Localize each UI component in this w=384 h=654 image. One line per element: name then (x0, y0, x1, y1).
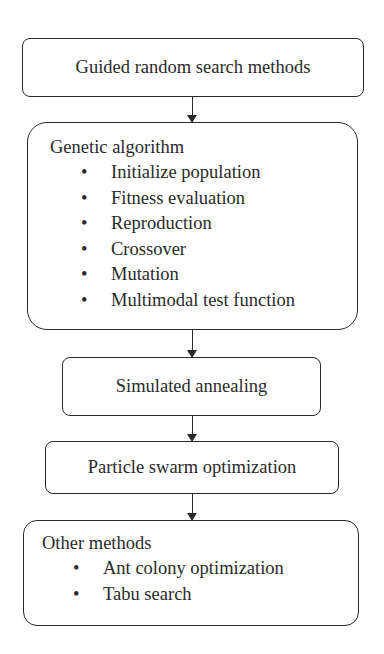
bullet-icon: • (81, 186, 87, 212)
node-label: Guided random search methods (76, 57, 311, 78)
bullet-icon: • (73, 556, 79, 582)
node-simulated-annealing: Simulated annealing (62, 357, 321, 416)
node-title: Other methods (42, 531, 358, 556)
arrow-pso-to-other (192, 494, 193, 520)
list-item: •Multimodal test function (111, 288, 357, 314)
list-item: •Fitness evaluation (111, 186, 357, 212)
list-item: •Reproduction (111, 211, 357, 237)
other-methods-list: •Ant colony optimization •Tabu search (42, 556, 358, 607)
bullet-icon: • (73, 582, 79, 608)
node-label: Simulated annealing (116, 376, 268, 397)
bullet-icon: • (81, 237, 87, 263)
node-genetic-algorithm: Genetic algorithm •Initialize population… (27, 122, 358, 330)
list-item: •Crossover (111, 237, 357, 263)
bullet-icon: • (81, 262, 87, 288)
arrow-ga-to-sa (192, 330, 193, 357)
list-item: •Initialize population (111, 160, 357, 186)
node-label: Particle swarm optimization (88, 457, 297, 478)
arrow-sa-to-pso (192, 416, 193, 441)
node-particle-swarm: Particle swarm optimization (45, 441, 339, 494)
list-item: •Tabu search (103, 582, 358, 608)
node-other-methods: Other methods •Ant colony optimization •… (23, 520, 359, 626)
bullet-icon: • (81, 288, 87, 314)
bullet-icon: • (81, 160, 87, 186)
bullet-icon: • (81, 211, 87, 237)
node-title: Genetic algorithm (50, 135, 357, 160)
node-guided-random-search: Guided random search methods (22, 38, 364, 97)
arrow-guided-to-ga (192, 97, 193, 122)
list-item: •Mutation (111, 262, 357, 288)
list-item: •Ant colony optimization (103, 556, 358, 582)
ga-step-list: •Initialize population •Fitness evaluati… (50, 160, 357, 313)
